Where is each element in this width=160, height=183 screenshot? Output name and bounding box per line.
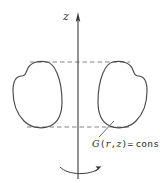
left-contour: [13, 61, 62, 127]
label-value: const: [135, 138, 160, 149]
rotation-arrowhead-icon: [95, 166, 102, 172]
contour-value-label: G(r,z)=const: [92, 138, 160, 149]
axis-label-z: z: [62, 10, 69, 23]
label-function-symbol: G: [92, 138, 100, 149]
rotation-arc: [60, 167, 99, 174]
diagram-canvas: z G(r,z)=const: [0, 0, 160, 183]
label-equals: =: [128, 138, 134, 149]
right-contour: [98, 61, 147, 127]
figure-container: z G(r,z)=const: [0, 0, 160, 183]
